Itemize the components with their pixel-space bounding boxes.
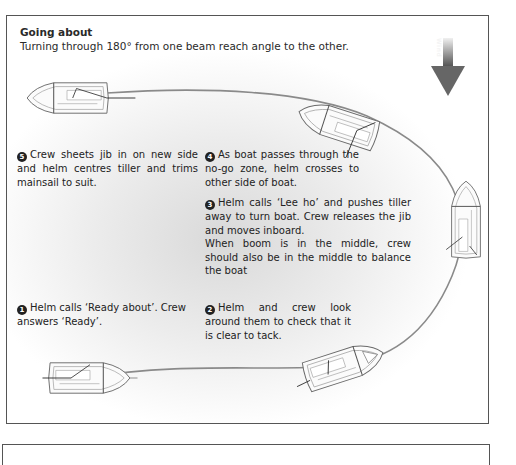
step-1-number: 1 bbox=[17, 305, 27, 315]
step-3: 3Helm calls ‘Lee ho’ and pushes tiller a… bbox=[205, 196, 411, 278]
step-1-text: Helm calls ‘Ready about’. Crew answers ‘… bbox=[17, 302, 186, 327]
step-1: 1Helm calls ‘Ready about’. Crew answers … bbox=[17, 301, 198, 329]
step-3-text: Helm calls ‘Lee ho’ and pushes tiller aw… bbox=[205, 197, 411, 236]
boat-position-3 bbox=[446, 181, 480, 258]
step-4-text: As boat passes through the no-go zone, h… bbox=[205, 149, 359, 188]
going-about-diagram: Going about Turning through 180° from on… bbox=[6, 15, 489, 424]
step-2-text: Helm and crew look around them to check … bbox=[205, 302, 351, 341]
step-3-note: When boom is in the middle, crew should … bbox=[205, 238, 411, 276]
step-5: 5Crew sheets jib in on new side and helm… bbox=[17, 148, 198, 189]
boat-position-1 bbox=[42, 363, 137, 393]
step-5-number: 5 bbox=[17, 152, 27, 162]
step-3-number: 3 bbox=[205, 200, 215, 210]
next-panel-edge bbox=[2, 444, 490, 465]
step-5-text: Crew sheets jib in on new side and helm … bbox=[17, 149, 198, 188]
boat-position-2 bbox=[291, 338, 388, 395]
step-2-number: 2 bbox=[205, 305, 215, 315]
boat-position-5 bbox=[27, 83, 135, 113]
wind-label: Wind bbox=[436, 38, 443, 57]
step-4: 4As boat passes through the no-go zone, … bbox=[205, 148, 359, 189]
step-4-number: 4 bbox=[205, 152, 215, 162]
step-2: 2Helm and crew look around them to check… bbox=[205, 301, 351, 342]
